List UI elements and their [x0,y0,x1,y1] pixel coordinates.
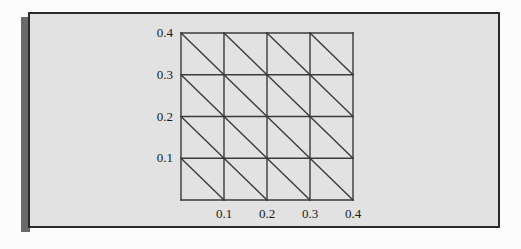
x-axis-tick-label: 0.4 [345,206,361,222]
x-axis-tick-label: 0.1 [216,206,232,222]
figure-panel [28,12,500,228]
y-axis-tick-label: 0.1 [157,150,173,166]
figure-root: 0.10.20.30.40.10.20.30.4 [0,0,521,249]
x-axis-tick-label: 0.3 [302,206,318,222]
x-axis-tick-label: 0.2 [259,206,275,222]
y-axis-tick-label: 0.4 [157,25,173,41]
y-axis-tick-label: 0.3 [157,67,173,83]
y-axis-tick-label: 0.2 [157,109,173,125]
